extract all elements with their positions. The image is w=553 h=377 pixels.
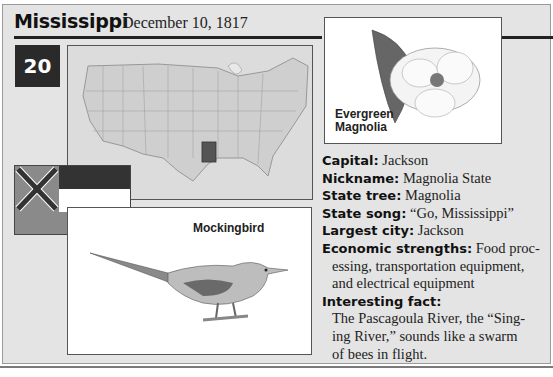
state-facts: Capital: Jackson Nickname: Magnolia Stat… <box>322 152 548 363</box>
bottom-divider <box>0 366 553 368</box>
flower-label-line2: Magnolia <box>335 121 394 134</box>
fact-economic-line2: essing, transportation equipment, <box>322 258 548 276</box>
title-rule <box>14 36 322 39</box>
fact-interesting: Interesting fact: <box>322 293 548 311</box>
flower-label: Evergreen Magnolia <box>335 108 394 134</box>
fact-nickname: Nickname: Magnolia State <box>322 170 548 188</box>
mississippi-highlight <box>202 142 216 162</box>
state-bird-panel: Mockingbird <box>67 207 312 355</box>
fact-capital: Capital: Jackson <box>322 152 548 170</box>
state-title: Mississippi <box>14 10 128 32</box>
fact-interesting-line1: The Pascagoula River, the “Sing- <box>322 310 548 328</box>
fact-economic-strengths: Economic strengths: Food proc- <box>322 240 548 258</box>
fact-interesting-line2: ing River,” sounds like a swarm <box>322 328 548 346</box>
mockingbird-icon <box>68 208 312 355</box>
state-number: 20 <box>24 54 52 78</box>
fact-label: Largest city: <box>322 223 414 238</box>
fact-value: “Go, Mississippi” <box>410 205 514 221</box>
fact-value: Magnolia <box>405 187 461 203</box>
fact-interesting-line3: of bees in flight. <box>322 346 548 364</box>
fact-label: State tree: <box>322 188 401 203</box>
fact-value: Food proc- <box>476 240 540 256</box>
fact-label: Economic strengths: <box>322 241 472 256</box>
fact-label: Capital: <box>322 153 379 168</box>
fact-largest-city: Largest city: Jackson <box>322 222 548 240</box>
title-rule-right <box>500 36 553 39</box>
fact-value: Magnolia State <box>403 170 491 186</box>
fact-state-song: State song: “Go, Mississippi” <box>322 205 548 223</box>
fact-label: State song: <box>322 206 406 221</box>
fact-value: Jackson <box>418 222 464 238</box>
state-number-badge: 20 <box>15 45 60 87</box>
state-flower-panel: Evergreen Magnolia <box>324 17 502 144</box>
fact-value: Jackson <box>382 152 428 168</box>
fact-economic-line3: and electrical equipment <box>322 275 548 293</box>
fact-label: Interesting fact: <box>322 294 441 309</box>
fact-label: Nickname: <box>322 171 399 186</box>
fact-state-tree: State tree: Magnolia <box>322 187 548 205</box>
statehood-date: December 10, 1817 <box>122 14 248 32</box>
